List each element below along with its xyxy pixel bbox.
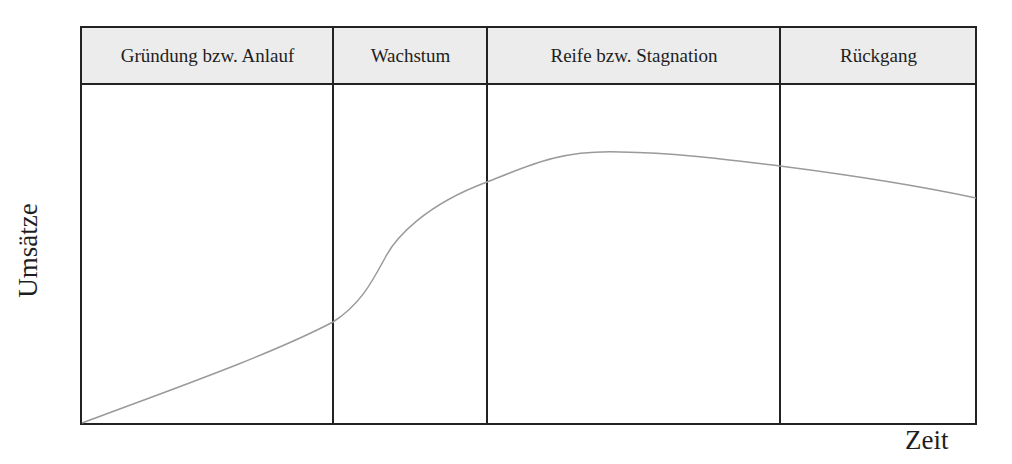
sales-curve	[82, 152, 976, 423]
x-axis-label: Zeit	[905, 425, 948, 456]
y-axis-label-text: Umsätze	[13, 203, 44, 297]
frame-border	[81, 27, 976, 424]
y-axis-label: Umsätze	[8, 195, 48, 305]
diagram-frame	[0, 0, 1012, 464]
product-lifecycle-diagram: Gründung bzw. Anlauf Wachstum Reife bzw.…	[0, 0, 1012, 464]
